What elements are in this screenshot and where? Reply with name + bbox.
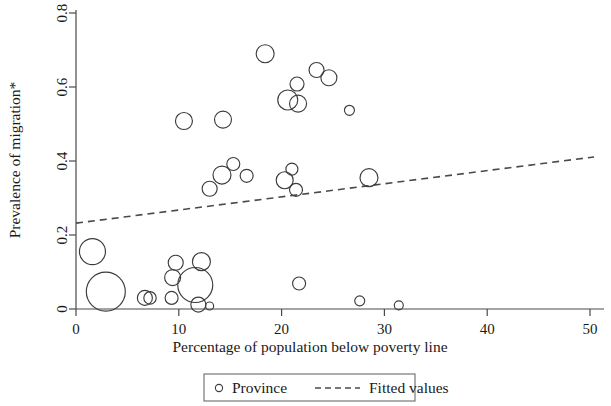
y-tick-label: 0.8: [54, 4, 70, 23]
y-tick-label: 0: [54, 305, 70, 313]
y-axis-title: Prevalence of migration*: [6, 81, 23, 238]
y-tick-label: 0.4: [54, 151, 70, 170]
y-tick-label: 0.2: [54, 226, 70, 245]
legend-province-label: Province: [232, 379, 287, 396]
x-tick-label: 30: [377, 321, 392, 337]
x-tick-label: 50: [583, 321, 598, 337]
x-tick-label: 10: [171, 321, 186, 337]
x-tick-label: 40: [480, 321, 495, 337]
x-tick-label: 0: [72, 321, 80, 337]
scatter-chart-figure: 00.20.40.60.8 Prevalence of migration* 0…: [0, 0, 611, 406]
legend-fitted-label: Fitted values: [369, 379, 449, 396]
x-axis-title: Percentage of population below poverty l…: [172, 338, 447, 355]
y-tick-label: 0.6: [54, 77, 70, 96]
chart-canvas: 00.20.40.60.8 Prevalence of migration* 0…: [0, 0, 611, 406]
x-tick-label: 20: [274, 321, 289, 337]
